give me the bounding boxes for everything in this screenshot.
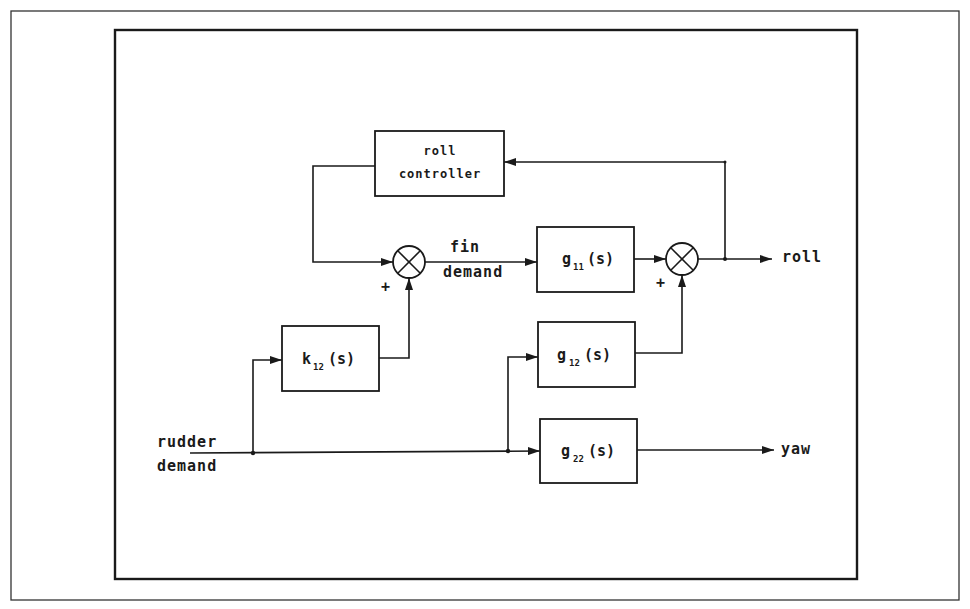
k12-base: k <box>302 350 311 368</box>
inner-frame <box>115 30 857 579</box>
yaw-output-label: yaw <box>781 440 811 458</box>
g22-block: g 22 (s) <box>540 419 637 483</box>
g11-base: g <box>562 250 571 268</box>
g11-subscript: 11 <box>573 262 584 272</box>
wire-rudder-to-g12 <box>508 357 538 451</box>
sum1-plus-sign: + <box>381 278 390 296</box>
roll-controller-label-2: controller <box>399 167 481 181</box>
wire-rudder-to-g22 <box>190 451 540 453</box>
roll-controller-block: roll controller <box>375 131 504 196</box>
rudder-demand-label-2: demand <box>157 457 217 475</box>
wire-rudder-to-k12 <box>253 360 282 453</box>
k12-subscript: 12 <box>313 362 324 372</box>
g12-block: g 12 (s) <box>538 322 635 387</box>
g22-subscript: 22 <box>573 454 584 464</box>
g11-block: g 11 (s) <box>537 227 634 292</box>
junction-dot-roll <box>723 257 727 261</box>
outer-frame <box>11 11 959 600</box>
g11-arg: (s) <box>587 250 614 268</box>
roll-controller-label-1: roll <box>424 144 457 158</box>
roll-output-label: roll <box>782 248 822 266</box>
g22-arg: (s) <box>588 442 615 460</box>
fin-demand-label-2: demand <box>443 263 503 281</box>
corner-dot-roll <box>724 161 727 164</box>
g12-base: g <box>557 346 566 364</box>
block-diagram: roll controller g 11 (s) k 12 (s) g 12 (… <box>0 0 970 609</box>
g12-arg: (s) <box>584 346 611 364</box>
k12-block: k 12 (s) <box>282 326 379 391</box>
k12-arg: (s) <box>328 350 355 368</box>
summing-junction-2: + <box>656 243 698 292</box>
sum2-plus-sign: + <box>656 274 665 292</box>
g12-subscript: 12 <box>569 358 580 368</box>
g22-base: g <box>561 442 570 460</box>
rudder-demand-label-1: rudder <box>157 433 217 451</box>
summing-junction-1: + <box>381 246 425 296</box>
fin-demand-label-1: fin <box>450 238 480 256</box>
